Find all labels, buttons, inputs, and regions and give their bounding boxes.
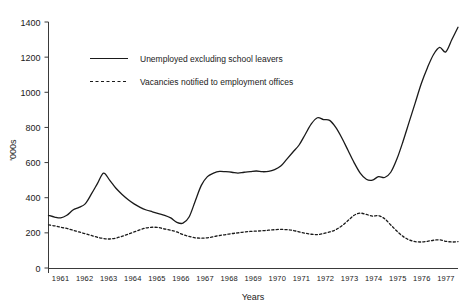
x-tick-label: 1965 [148, 274, 166, 283]
line-chart: 0200400600800100012001400 '000s 19611962… [0, 0, 462, 308]
x-tick-label: 1976 [413, 274, 431, 283]
y-tick-label: 0 [35, 264, 40, 274]
x-tick-label: 1961 [52, 274, 70, 283]
y-tick-label: 200 [25, 228, 40, 238]
x-tick-label: 1969 [245, 274, 263, 283]
x-axis: 1961196219631964196519661967196819691970… [49, 264, 459, 302]
legend-label-unemployed: Unemployed excluding school leavers [140, 54, 283, 64]
y-axis-title: '000s [8, 139, 18, 161]
y-axis: 0200400600800100012001400 '000s [8, 18, 49, 274]
legend-label-vacancies: Vacancies notified to employment offices [140, 77, 293, 87]
series-vacancies-line [49, 213, 459, 242]
y-tick-label: 1400 [20, 18, 40, 28]
x-axis-title: Years [242, 292, 265, 302]
x-tick-label: 1971 [293, 274, 311, 283]
x-tick-label: 1962 [76, 274, 94, 283]
chart-page: 0200400600800100012001400 '000s 19611962… [0, 0, 462, 308]
y-tick-marks [45, 22, 49, 268]
x-tick-label: 1972 [317, 274, 335, 283]
y-tick-label: 600 [25, 158, 40, 168]
x-tick-label: 1973 [341, 274, 359, 283]
x-tick-label: 1975 [389, 274, 407, 283]
y-tick-label: 400 [25, 193, 40, 203]
x-tick-label: 1966 [172, 274, 190, 283]
x-tick-label: 1974 [365, 274, 383, 283]
x-tick-label: 1963 [100, 274, 118, 283]
y-tick-labels: 0200400600800100012001400 [20, 18, 40, 274]
x-tick-label: 1977 [437, 274, 455, 283]
x-tick-label: 1970 [269, 274, 287, 283]
x-tick-labels: 1961196219631964196519661967196819691970… [52, 274, 455, 283]
x-tick-label: 1968 [220, 274, 238, 283]
x-tick-label: 1964 [124, 274, 142, 283]
y-tick-label: 1000 [20, 88, 40, 98]
legend: Unemployed excluding school leavers Vaca… [90, 54, 293, 87]
y-tick-label: 1200 [20, 53, 40, 63]
y-tick-label: 800 [25, 123, 40, 133]
x-tick-label: 1967 [196, 274, 214, 283]
